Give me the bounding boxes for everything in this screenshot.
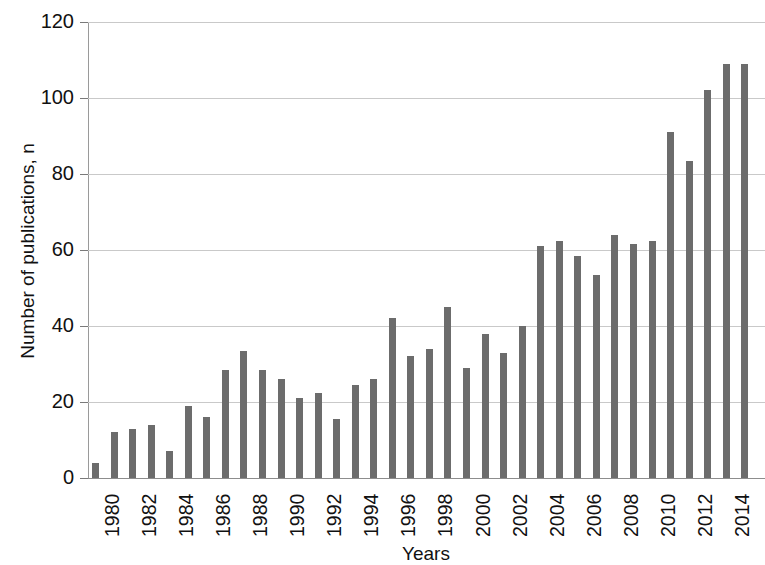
y-axis-tick: [80, 22, 88, 23]
x-axis-tick-label: 2010: [659, 494, 679, 537]
bar-chart: Number of publications, n 02040608010012…: [0, 0, 765, 565]
x-axis-tick-label: 1980: [103, 494, 123, 537]
y-axis-tick: [80, 98, 88, 99]
y-axis-tick: [80, 250, 88, 251]
y-axis-tick: [80, 174, 88, 175]
x-axis-tick-label: 2004: [548, 494, 568, 537]
x-axis-tick-label: 1998: [436, 494, 456, 537]
x-axis-title: Years: [336, 543, 516, 565]
x-axis-tick-label: 1984: [177, 494, 197, 537]
y-axis-tick: [80, 402, 88, 403]
x-axis-tick-label: 1990: [288, 494, 308, 537]
x-axis-tick-label: 1996: [399, 494, 419, 537]
x-axis-tick-label: 2006: [585, 494, 605, 537]
x-axis-tick-label: 2014: [733, 494, 753, 537]
y-axis-tick: [80, 326, 88, 327]
x-axis-tick-label: 1988: [251, 494, 271, 537]
x-axis-tick-label: 1994: [362, 494, 382, 537]
x-axis-tick-label: 1986: [214, 494, 234, 537]
x-axis-tick-labels: 1980198219841986198819901992199419961998…: [0, 0, 765, 565]
y-axis-tick: [80, 478, 88, 479]
x-axis-tick-label: 2012: [696, 494, 716, 537]
x-axis-tick-label: 1992: [325, 494, 345, 537]
x-axis-tick-label: 2008: [622, 494, 642, 537]
x-axis-tick-label: 2002: [511, 494, 531, 537]
x-axis-tick-label: 1982: [140, 494, 160, 537]
x-axis-tick-label: 2000: [474, 494, 494, 537]
